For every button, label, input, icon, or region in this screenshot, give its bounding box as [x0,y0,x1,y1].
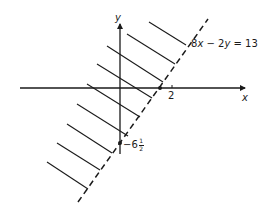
y-axis-label: y [115,13,121,23]
boundary-equation-label: 8x − 2y = 13 [191,39,258,49]
eq-rhs: = 13 [230,38,257,49]
y-intercept-point [118,141,122,145]
x-intercept-point [158,86,162,90]
x-axis-label: x [242,93,248,103]
eq-minus-2: − 2 [203,38,224,49]
fraction-numerator: 1 [139,138,143,144]
inequality-diagram [0,0,261,215]
x-intercept-label: 2 [168,91,174,101]
hatch-lines [47,22,186,189]
y-intercept-fraction: 1 2 [139,138,144,152]
fraction-denominator: 2 [139,146,143,152]
y-intercept-label: −6 1 2 [123,138,144,152]
y-intercept-whole: −6 [123,140,138,150]
boundary-line-dashed [78,19,208,202]
